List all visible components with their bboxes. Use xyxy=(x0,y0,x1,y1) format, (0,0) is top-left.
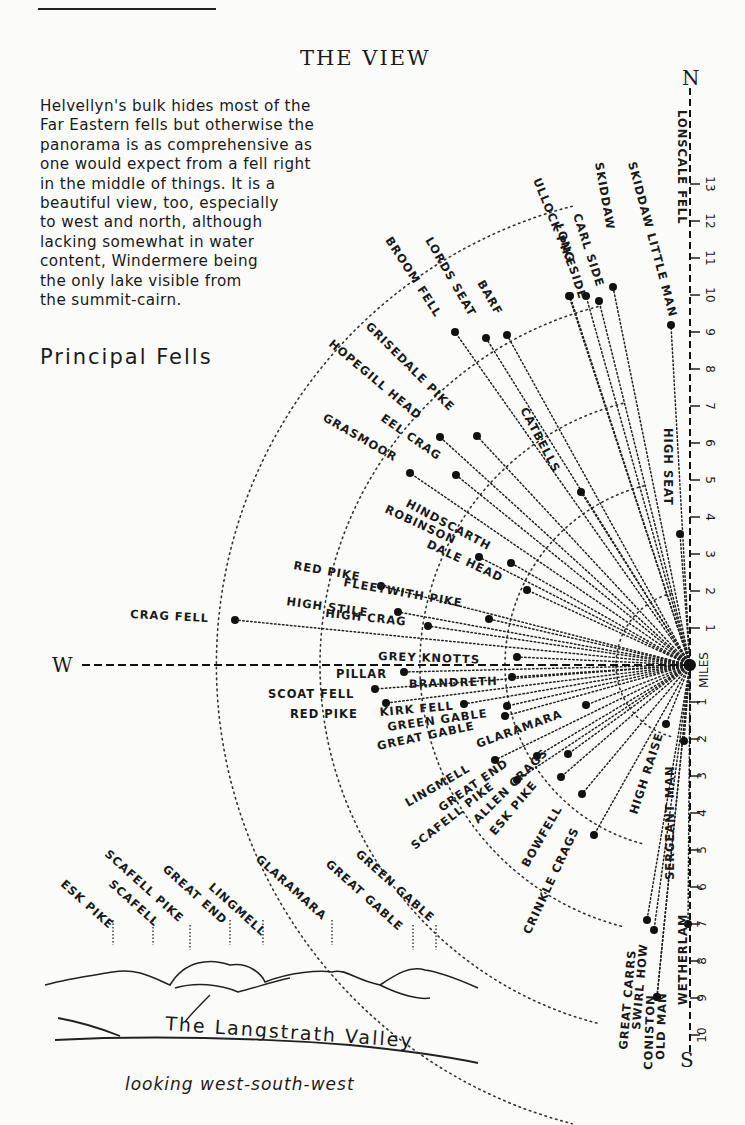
fell-marker xyxy=(485,615,493,623)
sight-line xyxy=(455,332,690,665)
fell-label: CRAG FELL xyxy=(130,607,210,625)
scale-tick-label: 3 xyxy=(695,772,709,780)
scale-tick-label: 3 xyxy=(703,550,717,558)
sight-line xyxy=(464,665,690,704)
fell-marker xyxy=(436,433,444,441)
fell-label: ULLOCK PIKE xyxy=(530,176,579,270)
scale-tick-label: 5 xyxy=(703,476,717,484)
scale-tick-label: 10 xyxy=(703,287,717,302)
fell-label: SKIDDAW LITTLE MAN xyxy=(625,160,680,319)
fell-marker xyxy=(667,321,675,329)
scale-tick-label: 9 xyxy=(695,994,709,1002)
scale-tick-label: 5 xyxy=(695,846,709,854)
fell-marker xyxy=(513,653,521,661)
scale-tick-label: 12 xyxy=(703,213,717,228)
fell-label: SKIDDAW xyxy=(592,161,618,231)
fell-label: SCOAT FELL xyxy=(268,687,354,701)
fell-marker xyxy=(523,586,531,594)
sight-line xyxy=(613,287,690,665)
scale-tick-label: 9 xyxy=(703,328,717,336)
fell-marker xyxy=(406,469,414,477)
fell-label: LONSCALE FELL xyxy=(675,110,689,225)
fell-marker xyxy=(451,328,459,336)
fell-marker xyxy=(578,790,586,798)
fell-label: PILLAR xyxy=(336,667,387,681)
direction-caption: looking west-south-west xyxy=(125,1074,355,1094)
scale-tick-label: 1 xyxy=(695,698,709,706)
sight-line xyxy=(599,301,690,665)
fell-marker xyxy=(473,432,481,440)
scale-tick-label: 4 xyxy=(703,513,717,521)
langstrath-sketch: ESK PIKESCAFELLSCAFELL PIKEGREAT ENDLING… xyxy=(45,847,478,1094)
scale-tick-label: 11 xyxy=(703,250,717,265)
fell-label: SERGEANT MAN xyxy=(663,765,677,880)
fell-marker xyxy=(680,737,688,745)
scale-tick-label: 6 xyxy=(695,883,709,891)
sight-line xyxy=(479,557,690,665)
fell-label: GREY KNOTTS xyxy=(378,649,480,667)
fell-marker xyxy=(595,297,603,305)
fell-marker xyxy=(507,559,515,567)
scale-tick-label: 13 xyxy=(703,176,717,191)
fell-label: HIGH SEAT xyxy=(661,428,675,506)
fell-marker xyxy=(676,530,684,538)
valley-caption: The Langstrath Valley xyxy=(164,1012,415,1051)
fell-label: HIGH CRAG xyxy=(325,606,408,628)
panorama-diagram: NSW1234567891011121312345678910MILES LON… xyxy=(0,0,745,1125)
fell-marker xyxy=(643,916,651,924)
fell-marker xyxy=(577,488,585,496)
fell-marker xyxy=(231,616,239,624)
fell-marker xyxy=(501,712,509,720)
scale-tick-label: 7 xyxy=(703,402,717,410)
fell-marker xyxy=(650,926,658,934)
fell-marker xyxy=(590,831,598,839)
peak-label: GREAT GABLE xyxy=(323,857,406,934)
scale-tick-label: 2 xyxy=(703,587,717,595)
south-label: S xyxy=(680,1048,694,1072)
fell-marker xyxy=(482,334,490,342)
fell-marker xyxy=(564,750,572,758)
fell-label: CATBELLS xyxy=(517,405,563,475)
scale-tick-label: 7 xyxy=(695,920,709,928)
fell-marker xyxy=(400,668,408,676)
fell-marker xyxy=(565,292,573,300)
miles-label: MILES xyxy=(697,652,711,688)
sight-line xyxy=(410,473,690,665)
sight-line xyxy=(561,665,690,777)
sight-line xyxy=(404,665,690,672)
scale-tick-label: 4 xyxy=(695,809,709,817)
north-label: N xyxy=(682,66,700,90)
fell-marker xyxy=(452,471,460,479)
fell-marker xyxy=(371,685,379,693)
fell-marker xyxy=(582,701,590,709)
fell-marker xyxy=(424,622,432,630)
scale-tick-label: 8 xyxy=(703,365,717,373)
fell-label: OLD MAN xyxy=(653,992,669,1060)
fell-label: GLARAMARA xyxy=(474,707,564,751)
west-label: W xyxy=(52,653,73,677)
scale-tick-label: 10 xyxy=(695,1027,709,1042)
fell-label: HOPEGILL HEAD xyxy=(326,337,425,423)
fell-label: CRINKLE CRAGS xyxy=(520,825,582,936)
sight-line xyxy=(581,492,690,665)
fell-marker xyxy=(460,700,468,708)
peak-label: GLARAMARA xyxy=(253,852,330,923)
fell-marker xyxy=(503,331,511,339)
fell-marker xyxy=(557,773,565,781)
scale-tick-label: 2 xyxy=(695,735,709,743)
fell-label: DALE HEAD xyxy=(425,537,506,585)
fell-marker xyxy=(508,673,516,681)
scale-tick-label: 6 xyxy=(703,439,717,447)
fell-label: RED PIKE xyxy=(290,707,358,721)
fell-label: BRANDRETH xyxy=(409,674,498,691)
fell-marker xyxy=(503,702,511,710)
scale-tick-label: 1 xyxy=(703,624,717,632)
ridge-line xyxy=(45,962,478,988)
fell-marker xyxy=(662,720,670,728)
scale-tick-label: 8 xyxy=(695,957,709,965)
sight-line xyxy=(517,657,690,665)
fell-label: WETHERLAM xyxy=(676,914,690,1005)
fell-marker xyxy=(609,283,617,291)
